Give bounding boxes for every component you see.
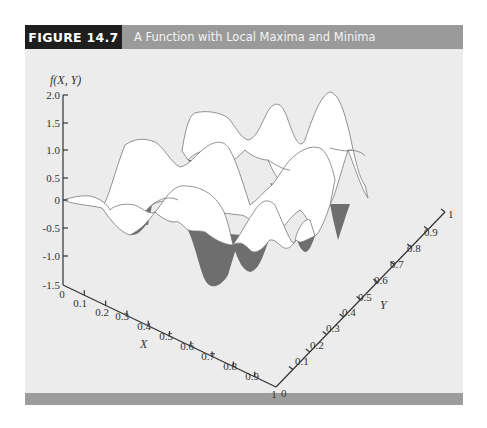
x-tick-label: 0.8 bbox=[223, 360, 237, 372]
x-tick-label: 0.2 bbox=[95, 306, 109, 318]
z-tick-label: 0.5 bbox=[46, 172, 60, 184]
z-tick-label: -0.5 bbox=[43, 222, 61, 234]
x-tick-label: 0.5 bbox=[159, 330, 173, 342]
z-tick-label: 2.0 bbox=[46, 89, 60, 101]
y-axis-title: Y bbox=[380, 298, 388, 312]
z-axis-title: f(X, Y) bbox=[50, 73, 81, 87]
z-axis bbox=[63, 95, 68, 285]
y-tick-label: 0.4 bbox=[342, 306, 356, 318]
x-tick-label: 0 bbox=[59, 288, 65, 300]
x-tick-label: 0.7 bbox=[201, 350, 215, 362]
y-tick-label: 0.7 bbox=[390, 258, 404, 270]
surface-chart: 2.0 1.5 1.0 0.5 0 -0.5 -1.0 -1.5 f(X, Y)… bbox=[0, 0, 487, 428]
y-tick-label: 0.9 bbox=[424, 226, 438, 238]
x-tick-label: 0.6 bbox=[180, 340, 194, 352]
y-tick-label: 0 bbox=[281, 387, 287, 399]
z-tick-label: 0 bbox=[55, 194, 61, 206]
y-tick-label: 0.6 bbox=[374, 274, 388, 286]
y-tick-label: 1 bbox=[448, 208, 454, 220]
z-tick-label: 1.0 bbox=[46, 144, 60, 156]
y-tick-label: 0.1 bbox=[295, 355, 309, 367]
y-tick-label: 0.2 bbox=[310, 339, 324, 351]
x-axis-labels: 0 0.1 0.2 0.3 0.4 0.5 0.6 0.7 0.8 0.9 1 bbox=[59, 288, 277, 400]
x-tick-label: 0.3 bbox=[115, 310, 129, 322]
z-tick-label: -1.5 bbox=[43, 279, 61, 291]
surface-top bbox=[63, 92, 368, 252]
x-tick-label: 0.4 bbox=[137, 320, 151, 332]
x-axis-title: X bbox=[139, 337, 148, 351]
y-tick-label: 0.8 bbox=[407, 242, 421, 254]
z-axis-labels: 2.0 1.5 1.0 0.5 0 -0.5 -1.0 -1.5 bbox=[43, 89, 61, 291]
y-tick-label: 0.3 bbox=[326, 322, 340, 334]
z-tick-label: 1.5 bbox=[46, 117, 60, 129]
x-tick-label: 0.9 bbox=[245, 370, 259, 382]
y-tick-label: 0.5 bbox=[358, 291, 372, 303]
z-tick-label: -1.0 bbox=[43, 250, 61, 262]
x-tick-label: 0.1 bbox=[73, 297, 87, 309]
x-tick-label: 1 bbox=[271, 388, 277, 400]
